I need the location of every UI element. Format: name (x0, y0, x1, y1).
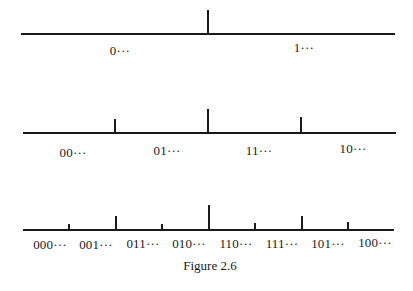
interval-label: 011··· (126, 237, 159, 250)
interval-label: 10··· (340, 142, 367, 155)
tick-mark-medium (301, 216, 303, 230)
interval-label: 100··· (358, 236, 392, 249)
interval-label: 0··· (110, 44, 130, 57)
tick-mark-small (347, 222, 349, 229)
interval-label: 01··· (154, 144, 181, 157)
tick-mark-large (207, 109, 209, 133)
tick-mark-medium (115, 216, 117, 231)
interval-label: 1··· (294, 41, 314, 54)
interval-label: 001··· (79, 238, 113, 251)
interval-label: 000··· (33, 238, 67, 251)
tick-mark-medium (114, 119, 116, 134)
interval-label: 111··· (266, 237, 299, 250)
figure-caption: Figure 2.6 (183, 258, 236, 274)
interval-label: 11··· (246, 144, 273, 157)
tick-mark-large (208, 205, 210, 230)
tick-mark-small (161, 224, 163, 230)
interval-label: 010··· (172, 237, 206, 250)
interval-label: 110··· (219, 237, 252, 250)
interval-label: 101··· (311, 237, 345, 250)
tick-mark-small (68, 224, 70, 231)
number-line (23, 132, 396, 134)
tick-mark-small (254, 223, 256, 230)
tick-mark-medium (300, 117, 302, 132)
tick-mark-large (207, 10, 209, 35)
interval-label: 00··· (60, 146, 87, 159)
